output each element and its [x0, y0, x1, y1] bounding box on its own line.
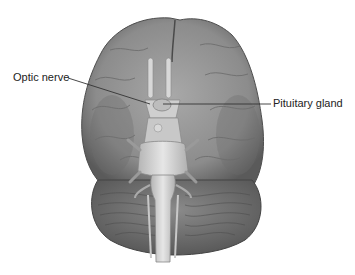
pons [138, 141, 188, 176]
brain-diagram: Optic nerve Pituitary gland [0, 0, 355, 275]
pituitary-gland [153, 99, 171, 111]
optic-nerve-label: Optic nerve [13, 71, 69, 83]
brain-illustration [0, 0, 355, 275]
pituitary-gland-label: Pituitary gland [273, 97, 343, 109]
